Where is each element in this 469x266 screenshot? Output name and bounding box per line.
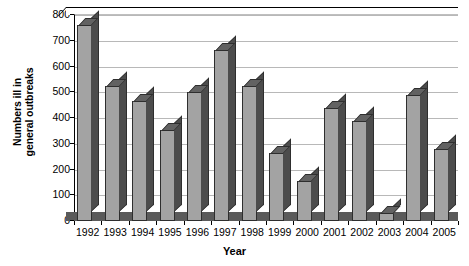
y-axis-tick-mark: [70, 66, 74, 67]
y-axis-tick-mark: [70, 194, 74, 195]
x-axis-tick-label: 1998: [241, 226, 264, 238]
x-axis-tick-mark: [293, 221, 294, 225]
x-axis-tick-mark: [431, 221, 432, 225]
y-axis-tick-label: 300: [44, 138, 70, 148]
y-axis-tick-label: 600: [44, 61, 70, 71]
y-axis-tick-mark: [70, 91, 74, 92]
x-axis-tick-mark: [321, 221, 322, 225]
x-axis-tick-mark: [156, 221, 157, 225]
x-axis-tick-mark: [403, 221, 404, 225]
bar-side-face: [366, 106, 374, 212]
x-axis-tick-label: 2000: [295, 226, 318, 238]
y-axis-tick-mark: [70, 220, 74, 221]
y-axis-tick-mark: [70, 14, 74, 15]
x-axis-tick-mark: [101, 221, 102, 225]
x-axis-tick-label: 2002: [350, 226, 373, 238]
y-axis-tick-label: 500: [44, 86, 70, 96]
bar-side-face: [228, 35, 236, 212]
bar-side-face: [201, 78, 209, 212]
y-axis-title-line1: Numbers ill in: [11, 68, 23, 157]
x-axis-tick-mark: [266, 221, 267, 225]
bar-side-face: [146, 87, 154, 212]
x-axis-tick-mark: [376, 221, 377, 225]
bar-1997: [214, 50, 229, 221]
x-axis-tick-mark: [348, 221, 349, 225]
x-axis-tick-label: 1992: [76, 226, 99, 238]
x-axis-tick-labels: 1992199319941995199619971998199920002001…: [74, 221, 466, 237]
y-axis-tick-label: 100: [44, 189, 70, 199]
bar-top-face: [380, 206, 400, 214]
bar-1999: [269, 153, 284, 221]
x-axis-tick-mark: [74, 221, 75, 225]
bar-side-face: [338, 93, 346, 212]
y-axis-tick-mark: [70, 117, 74, 118]
bar-2003: [379, 213, 394, 221]
y-axis-tick-mark: [70, 40, 74, 41]
bar-side-face: [256, 71, 264, 212]
x-axis-tick-label: 1994: [131, 226, 154, 238]
y-axis-tick-mark: [70, 143, 74, 144]
y-axis-tick-label: 700: [44, 35, 70, 45]
x-axis-tick-label: 1996: [186, 226, 209, 238]
x-axis-tick-label: 2001: [323, 226, 346, 238]
bar-2000: [297, 181, 312, 221]
x-axis-tick-label: 2005: [433, 226, 456, 238]
x-axis-tick-label: 1995: [158, 226, 181, 238]
x-axis-tick-label: 1993: [103, 226, 126, 238]
bar-2002: [352, 121, 367, 221]
x-axis-tick-label: 1997: [213, 226, 236, 238]
y-axis-title-line2: general outbreaks: [23, 68, 35, 157]
y-axis-tick-label: 200: [44, 164, 70, 174]
x-axis-tick-mark: [129, 221, 130, 225]
bar-1996: [187, 92, 202, 221]
bar-1998: [242, 86, 257, 221]
bar-side-face: [91, 11, 99, 212]
bar-1993: [105, 86, 120, 221]
y-axis-title: Numbers ill in general outbreaks: [0, 0, 46, 224]
bar-1992: [77, 25, 92, 221]
x-axis-tick-mark: [184, 221, 185, 225]
x-axis-tick-label: 2003: [378, 226, 401, 238]
x-axis-tick-label: 1999: [268, 226, 291, 238]
bar-2004: [406, 95, 421, 221]
y-axis-tick-label: 400: [44, 112, 70, 122]
x-axis-tick-label: 2004: [405, 226, 428, 238]
x-axis-tick-mark: [211, 221, 212, 225]
y-axis-tick-mark: [70, 169, 74, 170]
bar-side-face: [119, 71, 127, 212]
bar-1995: [160, 130, 175, 221]
bar-series: [74, 14, 458, 221]
bar-side-face: [420, 80, 428, 212]
bar-2001: [324, 108, 339, 221]
x-axis-title: Year: [0, 245, 469, 257]
bar-2005: [434, 149, 449, 221]
bar-chart: Numbers ill in general outbreaks 8007006…: [0, 0, 469, 266]
x-axis-tick-mark: [239, 221, 240, 225]
y-axis-tick-labels: 8007006005004003002001000: [42, 0, 70, 224]
x-axis-tick-mark: [458, 221, 459, 225]
bar-1994: [132, 101, 147, 221]
